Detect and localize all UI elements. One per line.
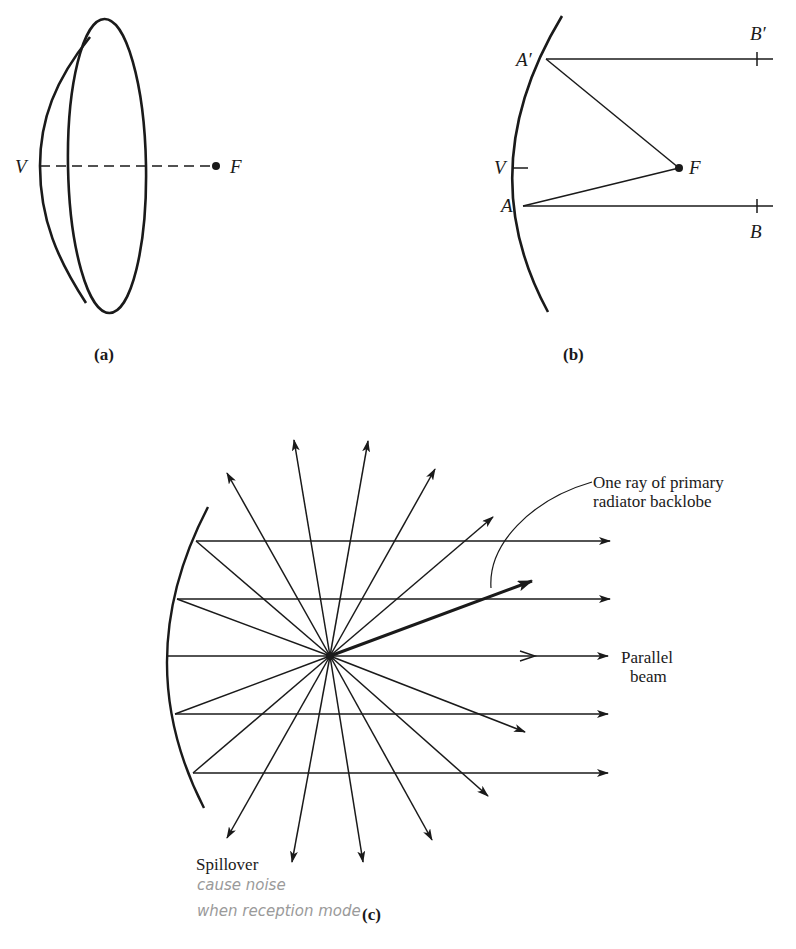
label-b-prime: B′: [750, 23, 767, 44]
spill-ray-down-2: [292, 656, 330, 862]
annotation-beam-line2: beam: [630, 667, 667, 686]
annotation-backlobe-line1: One ray of primary: [593, 473, 724, 492]
focus-point: [212, 162, 220, 170]
spill-ray-up-5: [330, 517, 493, 656]
caption-c: (c): [362, 905, 381, 924]
figure-b-parabola: [512, 16, 773, 312]
feed-ray-2: [177, 599, 330, 656]
annotation-backlobe-line2: radiator backlobe: [593, 492, 711, 511]
dish-profile: [40, 37, 90, 303]
ray-a-f: [523, 168, 679, 206]
label-vertex-b: V: [494, 157, 508, 178]
spill-ray-up-4: [330, 469, 435, 656]
focus-point-b: [675, 164, 683, 172]
caption-a: (a): [94, 345, 114, 364]
handwritten-note-line1: cause noise: [197, 876, 286, 894]
feed-ray-4: [175, 656, 330, 714]
annotation-beam-line1: Parallel: [621, 648, 673, 667]
backlobe-ray: [330, 581, 532, 656]
label-a-prime: A′: [514, 49, 533, 70]
spill-ray-down-6: [330, 656, 525, 732]
handwritten-note-line2: when reception mode: [197, 902, 361, 920]
ray-a-prime-f: [546, 59, 679, 168]
spill-ray-down-1: [227, 656, 330, 838]
spill-ray-up-3: [330, 441, 368, 656]
figure-c-ray-diagram: [166, 440, 610, 862]
spill-ray-down-5: [330, 656, 488, 796]
label-b: B: [750, 221, 762, 242]
label-focus: F: [229, 156, 242, 177]
label-focus-b: F: [688, 157, 701, 178]
backlobe-leader-curve: [491, 482, 592, 588]
antenna-diagram: V F (a) A′ B′ V F A B (b): [0, 0, 796, 949]
feed-focus-point: [326, 652, 334, 660]
label-a: A: [499, 195, 513, 216]
reflector-curve: [167, 507, 208, 808]
figure-a-paraboloid: [40, 18, 216, 313]
caption-b: (b): [563, 345, 584, 364]
annotation-spillover: Spillover: [196, 855, 259, 874]
label-vertex: V: [15, 156, 29, 177]
